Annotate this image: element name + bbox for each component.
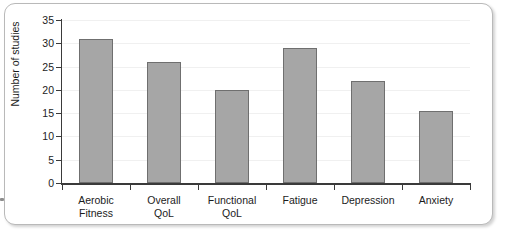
y-axis-tick <box>56 113 61 114</box>
bar <box>419 111 453 183</box>
x-axis-tick-label-line: Functional <box>198 194 266 207</box>
y-axis-tick <box>56 90 61 91</box>
x-axis-tick-label-line: Anxiety <box>402 194 470 207</box>
x-axis-tick-label: AerobicFitness <box>62 194 130 219</box>
x-axis-tick-label: FunctionalQoL <box>198 194 266 219</box>
y-axis-tick-label: 5 <box>14 155 54 166</box>
y-axis-tick-labels: 05101520253035 <box>6 0 54 236</box>
x-axis-tick <box>470 185 471 190</box>
x-axis-tick <box>198 185 199 190</box>
x-axis-tick <box>266 185 267 190</box>
x-axis-tick-label-line: QoL <box>130 207 198 220</box>
x-axis-tick-label: Fatigue <box>266 194 334 207</box>
x-axis-tick-label: OverallQoL <box>130 194 198 219</box>
bar <box>79 39 113 183</box>
x-axis-tick-label-line: QoL <box>198 207 266 220</box>
y-axis-tick-label: 20 <box>14 85 54 96</box>
y-axis-tick-label: 25 <box>14 62 54 73</box>
x-axis-tick <box>334 185 335 190</box>
bar <box>351 81 385 183</box>
x-axis-tick-label-line: Fitness <box>62 207 130 220</box>
x-axis-tick <box>402 185 403 190</box>
x-axis-tick-label: Anxiety <box>402 194 470 207</box>
y-axis-tick-label: 10 <box>14 131 54 142</box>
x-axis-tick-label: Depression <box>334 194 402 207</box>
y-axis-tick <box>56 136 61 137</box>
x-axis-tick <box>62 185 63 190</box>
y-axis-tick <box>56 67 61 68</box>
x-axis-tick <box>130 185 131 190</box>
x-axis-tick-label-line: Overall <box>130 194 198 207</box>
y-axis-tick-label: 0 <box>14 178 54 189</box>
y-axis-tick <box>56 160 61 161</box>
x-axis-tick-label-line: Fatigue <box>266 194 334 207</box>
y-axis-tick <box>56 20 61 21</box>
y-axis-tick-label: 35 <box>14 15 54 26</box>
y-axis-tick <box>56 183 61 184</box>
y-axis-tick <box>56 43 61 44</box>
x-axis-tick-label-line: Aerobic <box>62 194 130 207</box>
plot-area <box>62 20 470 183</box>
bar <box>147 62 181 183</box>
x-axis-tick-label-line: Depression <box>334 194 402 207</box>
bar <box>215 90 249 183</box>
page-edge-mark <box>0 198 4 201</box>
y-axis-tick-label: 30 <box>14 38 54 49</box>
y-axis-tick-label: 15 <box>14 108 54 119</box>
bar <box>283 48 317 183</box>
